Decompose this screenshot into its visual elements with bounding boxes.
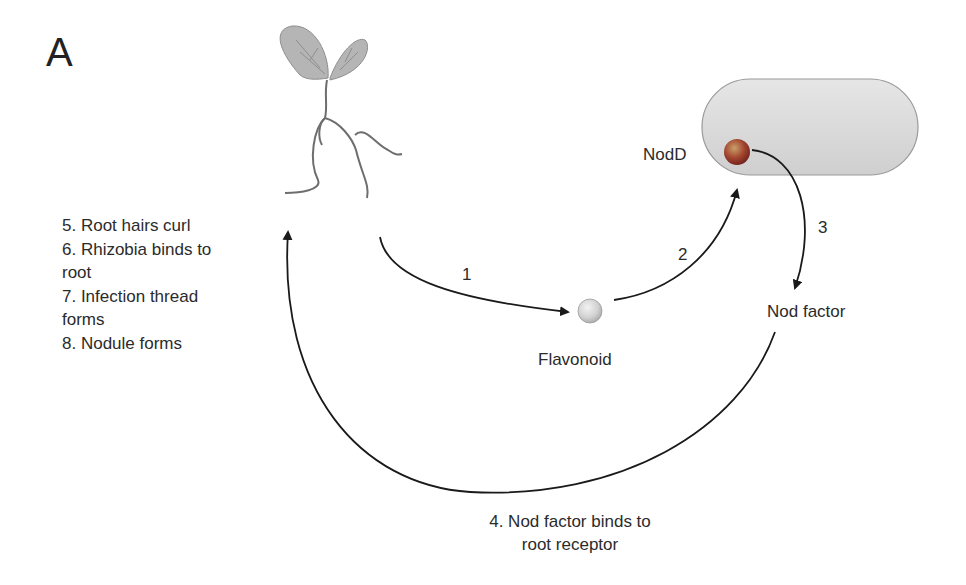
steps-list: 5. Root hairs curl 6. Rhizobia binds to …	[62, 214, 211, 355]
step1-label: 1	[462, 265, 471, 285]
steps-list-item: forms	[62, 308, 211, 332]
flavonoid-label: Flavonoid	[538, 350, 612, 370]
steps-list-item: 7. Infection thread	[62, 285, 211, 309]
arrow-step2	[614, 190, 737, 300]
step4-label: 4. Nod factor binds to root receptor	[420, 510, 720, 556]
step4-label-line1: 4. Nod factor binds to	[420, 510, 720, 533]
arrow-step1	[380, 237, 568, 312]
steps-list-item: 5. Root hairs curl	[62, 214, 211, 238]
step4-label-line2: root receptor	[420, 533, 720, 556]
panel-letter: A	[46, 30, 73, 75]
steps-list-item: 6. Rhizobia binds to	[62, 238, 211, 262]
nodd-label: NodD	[643, 145, 686, 165]
flavonoid-molecule-icon	[578, 299, 602, 323]
arrow-step4	[287, 232, 775, 493]
steps-list-item: 8. Nodule forms	[62, 332, 211, 356]
nod-factor-label: Nod factor	[767, 302, 845, 322]
step3-label: 3	[818, 218, 827, 238]
step2-label: 2	[678, 245, 687, 265]
steps-list-item: root	[62, 261, 211, 285]
nodd-protein-icon	[724, 139, 750, 165]
seedling-icon	[280, 26, 402, 198]
